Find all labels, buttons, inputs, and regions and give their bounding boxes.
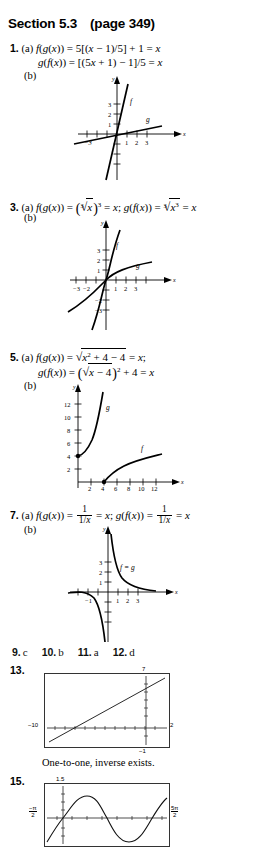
- problem-7-equation-1: f(g(x)) = 11/x = x; g(f(x)) = 11/x = x: [36, 509, 190, 521]
- problem-11-answer: a: [94, 646, 99, 658]
- problem-3-part-b-label: (b): [24, 212, 36, 223]
- graph-problem-1b: −3 1 2 3 1 2 3 x y f g: [70, 72, 190, 182]
- graph-problem-5b: 2 4 6 8 10 12 2 4 6 8 10 12 x y g f: [56, 378, 201, 493]
- calc-15-xmin-label: −π2: [29, 805, 37, 819]
- svg-text:8: 8: [127, 485, 130, 492]
- calc-13-ymax-label: 7: [142, 666, 145, 672]
- problem-5-part-b-label: (b): [24, 380, 36, 391]
- svg-text:2: 2: [126, 597, 129, 604]
- graph-problem-7b: −1 1 2 3 1 2 3 x y f = g: [62, 520, 192, 645]
- svg-text:3: 3: [136, 597, 139, 604]
- calc-13-xmax-label: 2: [170, 722, 173, 728]
- svg-text:2: 2: [88, 485, 91, 492]
- svg-text:x: x: [182, 131, 186, 137]
- page-title: Section 5.3(page 349): [8, 16, 155, 31]
- svg-text:2: 2: [124, 285, 127, 292]
- svg-text:12: 12: [64, 401, 71, 408]
- svg-text:3: 3: [97, 247, 100, 254]
- problem-1-part-b-label: (b): [24, 70, 36, 81]
- problem-5-equation-2: g(f(x)) = (√x − 4)2 + 4 = x: [38, 366, 154, 378]
- calc-15-xmin-fraction: −π2: [29, 805, 37, 819]
- calc-15-xmax-fraction: 5π2: [171, 805, 178, 819]
- problem-5-part-a-label: (a): [22, 352, 34, 363]
- problem-1-equation-1: f(g(x)) = 5[(x − 1)/5] + 1 = x: [36, 42, 160, 54]
- svg-text:2: 2: [97, 257, 100, 264]
- graph-problem-3b: −3 −2 1 2 3 1 2 3 −2 −3 x y f g: [60, 212, 190, 332]
- problem-3-number: 3.: [10, 201, 19, 213]
- svg-text:−1: −1: [85, 597, 92, 604]
- svg-text:−3: −3: [73, 285, 80, 292]
- problem-5-equation-1: f(g(x)) = √x2 + 4 − 4 = x;: [36, 351, 146, 363]
- problem-1-part-a-label: (a): [22, 43, 34, 54]
- svg-text:1: 1: [116, 597, 119, 604]
- svg-text:g: g: [146, 115, 150, 124]
- svg-text:f: f: [141, 444, 144, 453]
- problem-12-answer: d: [129, 646, 135, 658]
- svg-text:−3: −3: [95, 307, 102, 314]
- svg-text:f: f: [116, 241, 119, 250]
- svg-text:x: x: [172, 277, 176, 283]
- svg-text:8: 8: [67, 427, 70, 434]
- svg-text:3: 3: [134, 285, 137, 292]
- calc-13-xmin-label: −10: [28, 722, 38, 728]
- svg-text:−3: −3: [84, 139, 92, 146]
- calc-15-ymax-label: 1.5: [56, 776, 64, 782]
- svg-text:1: 1: [99, 579, 102, 586]
- svg-text:1: 1: [125, 139, 128, 146]
- problem-9-number: 9.: [12, 646, 21, 658]
- calculator-screen-15: [44, 783, 170, 847]
- problem-11-number: 11.: [78, 646, 92, 658]
- svg-text:3: 3: [145, 139, 148, 146]
- problem-10-answer: b: [58, 646, 64, 658]
- problem-1-equation-2: g(f(x)) = [(5x + 1) − 1]/5 = x: [38, 56, 162, 68]
- svg-text:f: f: [130, 97, 133, 106]
- calculator-screen-13: [44, 673, 170, 748]
- problem-13-number: 13.: [10, 664, 25, 676]
- problem-1-number: 1.: [10, 42, 19, 54]
- problem-9-answer: c: [23, 646, 28, 658]
- svg-text:y: y: [102, 526, 106, 532]
- calc-15-xmax-label: 5π2: [171, 805, 178, 819]
- svg-text:x: x: [174, 589, 178, 595]
- problem-1-line2: g(f(x)) = [(5x + 1) − 1]/5 = x: [38, 54, 162, 71]
- svg-text:10: 10: [138, 485, 145, 492]
- svg-text:1: 1: [114, 285, 117, 292]
- svg-text:−2: −2: [83, 285, 90, 292]
- svg-text:g: g: [106, 403, 110, 412]
- problem-7-part-a-label: (a): [22, 510, 34, 521]
- svg-text:−2: −2: [95, 297, 102, 304]
- svg-text:2: 2: [99, 569, 102, 576]
- svg-text:4: 4: [101, 485, 105, 492]
- svg-text:g: g: [136, 261, 140, 270]
- problem-15-number: 15.: [10, 775, 25, 787]
- problem-12-number: 12.: [113, 646, 128, 658]
- page-reference: (page 349): [90, 16, 155, 31]
- multiple-choice-row: 9.c10.b11.a12.d: [12, 646, 135, 658]
- svg-text:1: 1: [97, 267, 100, 274]
- svg-text:1: 1: [108, 121, 111, 128]
- svg-text:12: 12: [151, 485, 158, 492]
- problem-7-number: 7.: [10, 509, 19, 521]
- problem-13-caption: One-to-one, inverse exists.: [42, 757, 155, 768]
- svg-text:2: 2: [135, 139, 138, 146]
- svg-text:y: y: [72, 384, 76, 390]
- problem-10-number: 10.: [42, 646, 57, 658]
- problem-7-part-b-label: (b): [24, 524, 36, 535]
- svg-text:f = g: f = g: [120, 563, 135, 572]
- svg-text:y: y: [111, 76, 115, 82]
- svg-text:4: 4: [67, 453, 71, 460]
- svg-text:6: 6: [67, 440, 71, 447]
- svg-text:y: y: [100, 220, 104, 226]
- calc-13-ymin-label: −1: [139, 748, 146, 754]
- svg-text:x: x: [180, 479, 184, 485]
- svg-text:3: 3: [99, 559, 102, 566]
- svg-text:3: 3: [108, 101, 111, 108]
- svg-text:2: 2: [108, 111, 111, 118]
- svg-text:10: 10: [64, 414, 71, 421]
- section-number: Section 5.3: [8, 16, 77, 31]
- svg-text:6: 6: [114, 485, 118, 492]
- svg-text:2: 2: [67, 466, 70, 473]
- problem-5-number: 5.: [10, 351, 19, 363]
